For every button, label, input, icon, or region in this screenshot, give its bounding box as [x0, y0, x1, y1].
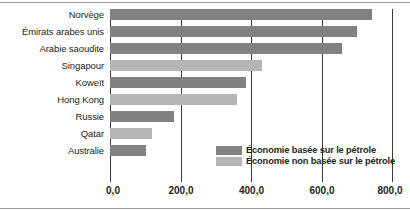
- xtick-label-200: 200,0: [168, 185, 193, 196]
- bar-russie: [110, 111, 174, 122]
- xtick-label-400: 400,0: [239, 185, 264, 196]
- xtick-label-800: 800,0: [377, 185, 402, 196]
- category-label-hong-kong: Hong Kong: [0, 95, 104, 105]
- xtick-200: [181, 175, 182, 182]
- bar-norvege: [110, 9, 372, 20]
- chart-legend: Économie basée sur le pétrole Économie n…: [216, 145, 395, 166]
- category-label-singapour: Singapour: [0, 61, 104, 71]
- xtick-label-0: 0,0: [106, 185, 120, 196]
- figure-bottom-rule: [0, 208, 410, 209]
- bar-koweit: [110, 77, 246, 88]
- figure-top-rule: [0, 2, 410, 3]
- xtick-400: [251, 175, 252, 182]
- legend-item-non-oil: Économie non basée sur le pétrole: [216, 156, 395, 166]
- xtick-0: [110, 175, 111, 182]
- category-label-australie: Australie: [0, 146, 104, 156]
- bar-chart: Norvège Émirats arabes unis Arabie saoud…: [0, 0, 410, 211]
- bar-arabie-saoudite: [110, 43, 342, 54]
- legend-swatch-oil-icon: [216, 146, 242, 155]
- legend-item-oil: Économie basée sur le pétrole: [216, 145, 395, 155]
- category-axis-labels: Norvège Émirats arabes unis Arabie saoud…: [0, 9, 104, 167]
- bar-singapour: [110, 60, 262, 71]
- category-label-norvege: Norvège: [0, 10, 104, 20]
- legend-swatch-non-oil-icon: [216, 157, 242, 166]
- bar-hong-kong: [110, 94, 237, 105]
- xtick-label-600: 600,0: [309, 185, 334, 196]
- category-label-emirats: Émirats arabes unis: [0, 27, 104, 37]
- xtick-800: [392, 175, 393, 182]
- bar-emirats: [110, 26, 357, 37]
- bar-qatar: [110, 128, 152, 139]
- category-label-koweit: Koweït: [0, 78, 104, 88]
- category-label-qatar: Qatar: [0, 129, 104, 139]
- category-label-russie: Russie: [0, 112, 104, 122]
- legend-label-oil: Économie basée sur le pétrole: [246, 145, 376, 155]
- plot-area: [110, 9, 392, 167]
- legend-label-non-oil: Économie non basée sur le pétrole: [246, 156, 395, 166]
- bar-australie: [110, 145, 146, 156]
- category-label-arabie-saoudite: Arabie saoudite: [0, 44, 104, 54]
- xtick-600: [322, 175, 323, 182]
